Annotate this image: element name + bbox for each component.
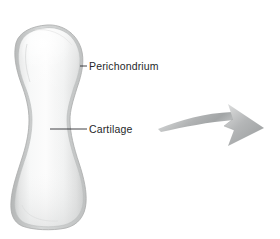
label-cartilage: Cartilage	[89, 123, 132, 135]
diagram-figure: Perichondrium Cartilage	[0, 0, 280, 239]
cartilage-model	[15, 28, 83, 227]
label-perichondrium: Perichondrium	[89, 60, 159, 72]
process-arrow	[158, 104, 264, 146]
diagram-canvas	[0, 0, 280, 239]
